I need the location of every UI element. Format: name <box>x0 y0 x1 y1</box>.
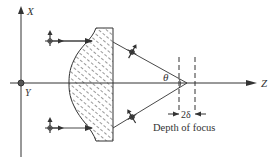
y-axis-label: Y <box>25 87 32 98</box>
z-axis-arrow-icon <box>246 80 257 86</box>
depth-value-label: 2δ <box>181 109 191 120</box>
theta-label: θ <box>163 71 169 83</box>
x-axis-label: X <box>26 5 35 17</box>
polarization-marker-lower-ray-icon <box>123 107 140 126</box>
lens <box>69 28 113 141</box>
z-axis-label: Z <box>261 77 268 89</box>
x-axis-arrow-icon <box>18 6 24 14</box>
depth-of-focus-caption: Depth of focus <box>153 122 215 133</box>
converging-ray-top <box>113 42 187 83</box>
polarization-marker-top-icon <box>45 30 64 46</box>
polarization-marker-upper-ray-icon <box>124 42 141 61</box>
lens-diagram: X Z Y <box>0 0 275 166</box>
origin-point-icon <box>18 80 24 86</box>
z-axis <box>10 80 257 86</box>
polarization-marker-bottom-icon <box>45 117 64 133</box>
